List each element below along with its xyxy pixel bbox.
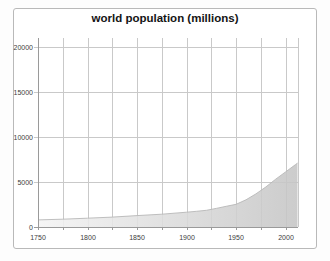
x-tick-label: 1800 [73,233,103,242]
y-tick-label: 15000 [0,88,33,97]
y-tick-label: 0 [0,223,33,232]
x-tick-label: 1900 [172,233,202,242]
area-series-fill [38,163,298,227]
plot-area [0,0,330,261]
y-tick-label: 5000 [0,178,33,187]
x-tick-label: 1850 [122,233,152,242]
y-tick-label: 20000 [0,43,33,52]
y-tick-label: 10000 [0,133,33,142]
x-tick-label: 1750 [23,233,53,242]
x-tick-label: 1950 [221,233,251,242]
x-tick-label: 2000 [271,233,301,242]
